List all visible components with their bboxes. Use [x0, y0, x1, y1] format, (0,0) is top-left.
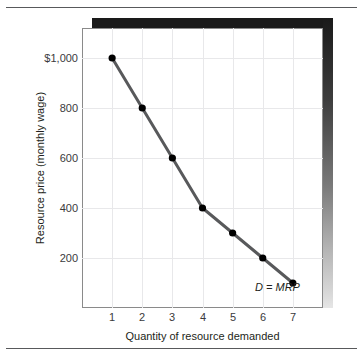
data-point-marker: [139, 104, 146, 111]
data-point-marker: [169, 154, 176, 161]
x-axis-tick-label: 5: [221, 311, 245, 324]
demand-curve: [82, 28, 323, 308]
plot-area: [82, 28, 323, 308]
x-axis-tick-label: 3: [160, 311, 184, 324]
panel-shadow-right: [323, 18, 333, 308]
x-axis-tick-label: 4: [191, 311, 215, 324]
data-point-marker: [229, 229, 236, 236]
data-point-marker: [109, 54, 116, 61]
x-axis-ticks: 1234567: [82, 311, 323, 327]
data-point-marker: [199, 204, 206, 211]
x-axis-title: Quantity of resource demanded: [82, 330, 323, 342]
data-point-marker: [259, 254, 266, 261]
figure: $1,000800600400200 1234567 Resource pric…: [0, 0, 363, 356]
x-axis-tick-label: 1: [100, 311, 124, 324]
demand-curve-line: [112, 58, 293, 283]
x-axis-tick-label: 2: [130, 311, 154, 324]
demand-curve-label: D = MRP: [255, 281, 300, 293]
y-axis-title: Resource price (monthly wage): [34, 43, 46, 293]
panel-shadow-top: [92, 18, 333, 28]
x-axis-tick-label: 6: [251, 311, 275, 324]
figure-bottom-rule: [6, 348, 357, 349]
x-axis-tick-label: 7: [281, 311, 305, 324]
figure-top-rule: [6, 7, 357, 8]
